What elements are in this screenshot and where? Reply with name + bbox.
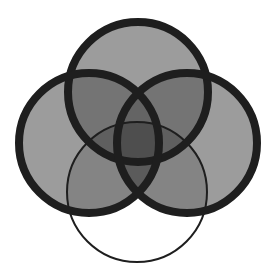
venn-diagram — [0, 0, 275, 278]
